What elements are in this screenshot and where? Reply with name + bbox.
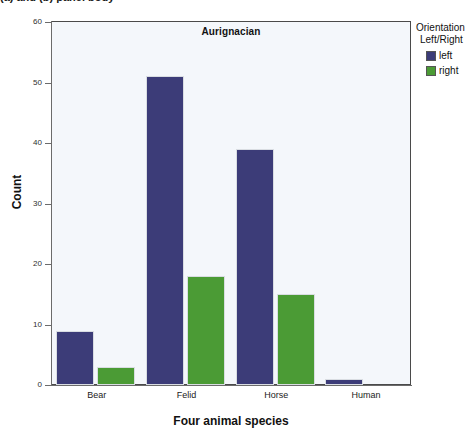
bar-bear-right	[97, 367, 135, 385]
y-axis-tick-label: 10	[8, 320, 42, 329]
y-axis-tick-label: 50	[8, 78, 42, 87]
x-axis-line	[51, 385, 412, 386]
y-axis-tick-label: 0	[8, 380, 42, 389]
legend-item-right[interactable]: right	[416, 65, 471, 76]
legend-swatch-left	[426, 51, 436, 61]
chart-legend: Orientation Left/Right leftright	[416, 22, 471, 76]
bar-felid-right	[187, 276, 225, 385]
bar-group	[321, 22, 411, 385]
bar-horse-left	[236, 149, 274, 385]
legend-entries: leftright	[416, 50, 471, 76]
y-axis-tick-label: 20	[8, 259, 42, 268]
y-axis-tick	[45, 204, 52, 205]
y-axis-tick	[45, 143, 52, 144]
legend-swatch-right	[426, 66, 436, 76]
x-axis-label-bear: Bear	[47, 390, 147, 400]
legend-item-left[interactable]: left	[416, 50, 471, 61]
legend-label-right: right	[439, 65, 458, 76]
y-axis-tick	[45, 22, 52, 23]
y-axis-tick-label: 60	[8, 17, 42, 26]
bar-felid-left	[146, 76, 184, 385]
bar-group	[232, 22, 322, 385]
x-axis-label-felid: Felid	[137, 390, 237, 400]
bar-group	[142, 22, 232, 385]
bar-bear-left	[56, 331, 94, 385]
legend-title-line1: Orientation	[416, 22, 465, 33]
y-axis-tick	[45, 264, 52, 265]
legend-label-left: left	[439, 50, 452, 61]
x-axis-label-horse: Horse	[226, 390, 326, 400]
x-axis-label-human: Human	[316, 390, 416, 400]
bar-group	[52, 22, 142, 385]
y-axis-tick	[45, 325, 52, 326]
legend-title: Orientation Left/Right	[416, 22, 471, 46]
chart-figure: Aurignacian 0102030405060 Count Four ani…	[0, 0, 471, 448]
y-axis-tick	[45, 83, 52, 84]
legend-title-line2: Left/Right	[416, 34, 471, 46]
bar-human-left	[325, 379, 363, 385]
x-axis-title: Four animal species	[51, 414, 411, 428]
bar-horse-right	[277, 294, 315, 385]
y-axis-title: Count	[10, 142, 24, 242]
plot-area	[52, 22, 411, 385]
y-axis-tick	[45, 385, 52, 386]
